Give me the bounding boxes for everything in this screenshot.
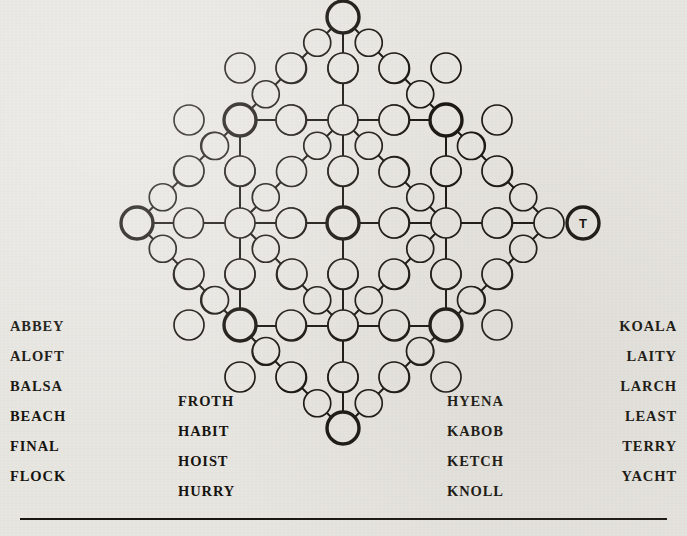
grid-node[interactable] — [431, 208, 461, 238]
grid-node[interactable] — [225, 53, 255, 83]
grid-node[interactable] — [328, 156, 358, 186]
grid-node[interactable] — [431, 53, 461, 83]
grid-node[interactable] — [149, 235, 176, 262]
grid-node[interactable] — [431, 259, 461, 289]
puzzle-grid[interactable]: T — [0, 0, 687, 536]
grid-node[interactable] — [252, 184, 279, 211]
grid-node[interactable] — [328, 105, 358, 135]
word-item: FLOCK — [10, 461, 66, 491]
grid-node[interactable] — [252, 235, 279, 262]
grid-node[interactable] — [510, 184, 537, 211]
word-item: KABOB — [447, 416, 504, 446]
grid-node[interactable] — [482, 156, 512, 186]
grid-node-bold[interactable] — [327, 207, 359, 239]
word-list-column-3: HYENAKABOBKETCHKNOLL — [447, 386, 504, 506]
grid-node-bold[interactable] — [224, 309, 256, 341]
grid-node[interactable] — [355, 29, 382, 56]
grid-node[interactable] — [379, 362, 409, 392]
grid-node[interactable] — [355, 132, 382, 159]
grid-node[interactable] — [276, 105, 306, 135]
bottom-rule-divider — [20, 518, 667, 520]
grid-node[interactable] — [482, 310, 512, 340]
grid-node[interactable] — [252, 81, 279, 108]
word-item: HOIST — [178, 446, 235, 476]
grid-node[interactable] — [458, 133, 485, 160]
grid-node[interactable] — [482, 208, 512, 238]
grid-node[interactable] — [225, 156, 255, 186]
grid-node[interactable] — [355, 287, 382, 314]
grid-node[interactable] — [407, 235, 434, 262]
grid-node-bold[interactable] — [327, 412, 359, 444]
grid-node-letter: T — [579, 216, 587, 231]
grid-node[interactable] — [276, 53, 306, 83]
grid-node[interactable] — [379, 157, 409, 187]
grid-node[interactable] — [379, 105, 409, 135]
grid-node[interactable] — [277, 259, 307, 289]
grid-node[interactable] — [482, 105, 512, 135]
word-item: HABIT — [178, 416, 235, 446]
word-list-column-2: FROTHHABITHOISTHURRY — [178, 386, 235, 506]
grid-node[interactable] — [458, 287, 485, 314]
word-item: KNOLL — [447, 476, 504, 506]
grid-node[interactable] — [174, 105, 204, 135]
grid-node[interactable] — [379, 53, 409, 83]
grid-node[interactable] — [202, 133, 229, 160]
grid-node[interactable] — [304, 287, 331, 314]
grid-node[interactable] — [253, 338, 280, 365]
grid-node[interactable] — [174, 259, 204, 289]
word-item: LAITY — [613, 341, 677, 371]
grid-node-bold[interactable] — [224, 104, 256, 136]
grid-node[interactable] — [482, 259, 512, 289]
word-item: LARCH — [613, 371, 677, 401]
grid-node-bold[interactable] — [327, 1, 359, 33]
grid-node[interactable] — [276, 362, 306, 392]
grid-node[interactable] — [328, 53, 358, 83]
word-item: ABBEY — [10, 311, 66, 341]
grid-node[interactable] — [407, 81, 434, 108]
grid-node-bold[interactable] — [430, 309, 462, 341]
grid-node[interactable] — [510, 235, 537, 262]
grid-node[interactable] — [431, 156, 461, 186]
grid-node[interactable] — [149, 184, 176, 211]
grid-node[interactable] — [379, 208, 409, 238]
word-list-column-4: KOALALAITYLARCHLEASTTERRYYACHT — [613, 311, 677, 491]
grid-node[interactable] — [225, 259, 255, 289]
grid-node[interactable] — [407, 184, 434, 211]
grid-node[interactable] — [277, 157, 307, 187]
grid-node[interactable] — [174, 208, 204, 238]
word-item: FINAL — [10, 431, 66, 461]
grid-node[interactable] — [355, 390, 382, 417]
grid-node[interactable] — [304, 132, 331, 159]
grid-node[interactable] — [534, 208, 564, 238]
grid-node-bold[interactable] — [121, 207, 153, 239]
grid-node[interactable] — [174, 310, 204, 340]
grid-node[interactable] — [202, 287, 229, 314]
word-item: KETCH — [447, 446, 504, 476]
word-item: YACHT — [613, 461, 677, 491]
word-item: BEACH — [10, 401, 66, 431]
grid-node[interactable] — [407, 338, 434, 365]
word-item: FROTH — [178, 386, 235, 416]
grid-node[interactable] — [328, 362, 358, 392]
grid-node[interactable] — [379, 310, 409, 340]
grid-node[interactable] — [276, 208, 306, 238]
grid-node[interactable] — [174, 156, 204, 186]
grid-node[interactable] — [328, 310, 358, 340]
grid-node-bold[interactable] — [430, 104, 462, 136]
word-item: HURRY — [178, 476, 235, 506]
word-item: HYENA — [447, 386, 504, 416]
word-item: TERRY — [613, 431, 677, 461]
word-item: BALSA — [10, 371, 66, 401]
grid-node[interactable] — [276, 310, 306, 340]
grid-node[interactable] — [328, 259, 358, 289]
word-item: LEAST — [613, 401, 677, 431]
word-item: ALOFT — [10, 341, 66, 371]
grid-node[interactable] — [379, 259, 409, 289]
grid-node[interactable] — [225, 208, 255, 238]
grid-node[interactable] — [304, 390, 331, 417]
word-list-column-1: ABBEYALOFTBALSABEACHFINALFLOCK — [10, 311, 66, 491]
grid-node[interactable] — [304, 29, 331, 56]
word-item: KOALA — [613, 311, 677, 341]
